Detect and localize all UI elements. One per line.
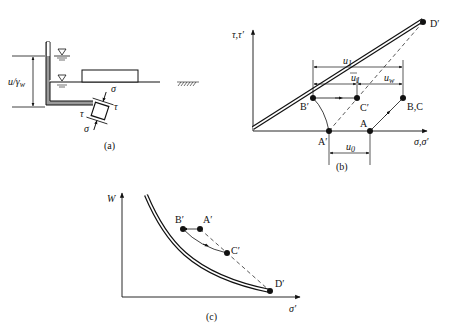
label-C-prime: C′ (360, 102, 369, 113)
point-B-prime (180, 226, 186, 232)
dim-uw: uw (358, 72, 402, 85)
caption-b: (b) (336, 161, 348, 173)
path-A-B-prime (313, 98, 329, 131)
point-D-prime (267, 288, 273, 294)
water-level-upper (54, 49, 70, 60)
caption-c: (c) (206, 311, 217, 323)
svg-text:u1: u1 (351, 72, 360, 85)
path-B-C-prime (183, 229, 227, 253)
svg-text:u1: u1 (343, 55, 352, 68)
label-D-prime: D′ (430, 18, 439, 29)
label-C-prime: C′ (231, 245, 240, 256)
height-label: u/γw (8, 76, 26, 89)
label-A: A (360, 118, 368, 129)
failure-envelope (253, 20, 423, 128)
label-A-prime: A′ (203, 214, 212, 225)
dim-u0: u0 (329, 131, 370, 165)
tau-left-label: τ (80, 108, 84, 119)
point-BC (400, 95, 406, 101)
ground-hatch (177, 82, 199, 86)
point-A (367, 128, 373, 134)
label-B-prime: B′ (300, 101, 309, 112)
figure-a: u/γw (8, 42, 199, 152)
svg-text:u0: u0 (346, 141, 355, 154)
svg-text:uw: uw (384, 72, 395, 85)
point-A-prime (197, 226, 203, 232)
point-B-prime (310, 95, 316, 101)
tau-right-label: τ (114, 101, 118, 112)
boundary-curve (146, 195, 270, 291)
point-C-prime (354, 95, 360, 101)
sigma-prime-axis-label: σ′ (289, 303, 297, 314)
tau-axis-label: τ,τ′ (232, 29, 245, 40)
figure-c: W σ′ B′ A′ C′ D′ (c) (107, 193, 300, 323)
surface-load (82, 70, 138, 82)
height-dimension: u/γw (8, 56, 45, 107)
sigma-bottom-label: σ (84, 123, 90, 134)
sigma-top-label: σ (111, 83, 117, 94)
label-A-prime: A′ (318, 136, 327, 147)
figure-canvas: u/γw (0, 0, 454, 335)
point-A-prime (326, 128, 332, 134)
sigma-axis-label: σ,σ′ (414, 136, 429, 147)
label-D-prime: D′ (275, 278, 284, 289)
figure-b: τ,τ′ σ,σ′ u1 u1 uw (232, 18, 439, 173)
water-level-lower (57, 75, 67, 87)
label-BC: B,C (407, 101, 423, 112)
label-B-prime: B′ (175, 214, 184, 225)
point-D-prime (420, 19, 426, 25)
dashed-path-A-D (329, 22, 423, 131)
caption-a: (a) (104, 140, 115, 152)
point-C-prime (224, 250, 230, 256)
w-axis-label: W (107, 193, 117, 204)
